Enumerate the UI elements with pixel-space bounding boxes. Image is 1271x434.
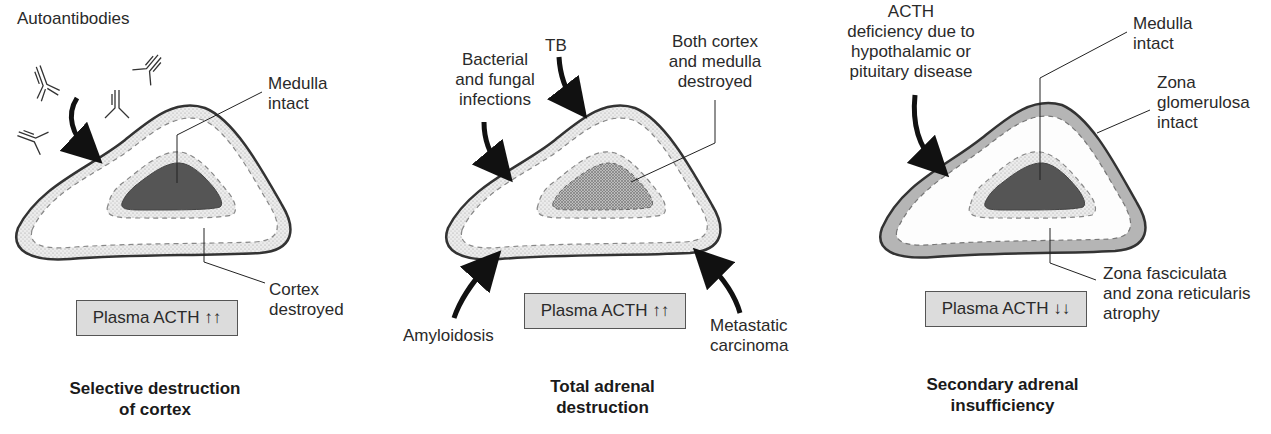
label-line: pituitary disease	[836, 62, 986, 82]
acth-deficiency-arrow	[914, 95, 935, 163]
label-autoantibodies: Autoantibodies	[17, 9, 129, 29]
label-line: ACTH	[836, 2, 986, 22]
label-line: deficiency due to	[836, 22, 986, 42]
label-line: Metastatic	[710, 316, 788, 336]
label-line: carcinoma	[710, 336, 788, 356]
label-zona-fasciculata-reticularis: Zona fasciculata and zona reticularis at…	[1103, 264, 1250, 324]
title-line: Selective destruction	[55, 378, 255, 399]
label-line: Both cortex	[660, 32, 770, 52]
label-line: intact	[1157, 113, 1250, 133]
title-line: destruction	[520, 397, 685, 418]
panel-title-3: Secondary adrenal insufficiency	[910, 374, 1095, 416]
label-cortex-destroyed: Cortex destroyed	[269, 280, 344, 320]
gland-selective-destruction	[16, 106, 290, 260]
label-line: Cortex	[269, 280, 344, 300]
label-line: and medulla	[660, 52, 770, 72]
title-line: Secondary adrenal	[910, 374, 1095, 395]
label-metastatic-carcinoma: Metastatic carcinoma	[710, 316, 788, 356]
autoantibody-arrow	[71, 98, 88, 150]
label-tb: TB	[545, 36, 567, 56]
title-line: Total adrenal	[520, 376, 685, 397]
gland-total-destruction	[446, 106, 720, 260]
gland-secondary-insufficiency	[880, 103, 1145, 258]
label-line: Medulla	[268, 74, 328, 94]
label-amyloidosis: Amyloidosis	[403, 326, 494, 346]
label-both-destroyed: Both cortex and medulla destroyed	[660, 32, 770, 92]
title-line: of cortex	[55, 399, 255, 420]
label-line: and fungal	[440, 70, 550, 90]
plasma-acth-box-1: Plasma ACTH ↑↑	[76, 300, 238, 336]
label-line: Medulla	[1133, 14, 1193, 34]
label-medulla-intact-1: Medulla intact	[268, 74, 328, 114]
panel-title-2: Total adrenal destruction	[520, 376, 685, 418]
label-line: destroyed	[269, 300, 344, 320]
label-bacterial-fungal-infections: Bacterial and fungal infections	[440, 50, 550, 110]
label-line: atrophy	[1103, 304, 1250, 324]
label-medulla-intact-3: Medulla intact	[1133, 14, 1193, 54]
diagram-canvas	[0, 0, 1271, 434]
label-acth-deficiency: ACTH deficiency due to hypothalamic or p…	[836, 2, 986, 82]
label-line: destroyed	[660, 72, 770, 92]
label-line: and zona reticularis	[1103, 284, 1250, 304]
label-line: infections	[440, 90, 550, 110]
label-zona-glomerulosa-intact: Zona glomerulosa intact	[1157, 73, 1250, 133]
label-line: Bacterial	[440, 50, 550, 70]
label-line: intact	[268, 94, 328, 114]
label-line: Zona	[1157, 73, 1250, 93]
label-line: intact	[1133, 34, 1193, 54]
panel-title-1: Selective destruction of cortex	[55, 378, 255, 420]
label-line: hypothalamic or	[836, 42, 986, 62]
plasma-acth-box-3: Plasma ACTH ↓↓	[925, 291, 1087, 327]
label-line: glomerulosa	[1157, 93, 1250, 113]
title-line: insufficiency	[910, 395, 1095, 416]
plasma-acth-box-2: Plasma ACTH ↑↑	[524, 293, 686, 329]
label-line: Zona fasciculata	[1103, 264, 1250, 284]
